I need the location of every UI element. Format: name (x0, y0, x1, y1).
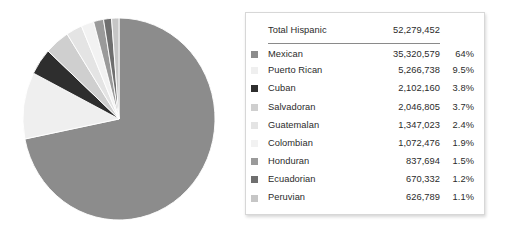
total-percent-cell (440, 24, 474, 44)
table-row: Puerto Rican5,266,7389.5% (251, 62, 474, 80)
legend-swatch-cell (251, 98, 268, 116)
table-row: Peruvian626,7891.1% (251, 189, 474, 207)
legend-swatch-cell (251, 80, 268, 98)
table-row: Honduran837,6941.5% (251, 153, 474, 171)
legend-item-label: Colombian (268, 134, 363, 152)
legend-item-label: Cuban (268, 80, 363, 98)
legend-item-label: Mexican (268, 44, 363, 62)
legend-item-percent: 9.5% (440, 62, 474, 80)
legend-color-swatch-icon (251, 51, 258, 58)
legend-item-percent: 1.9% (440, 134, 474, 152)
legend-item-value: 2,102,160 (363, 80, 440, 98)
pie-chart (22, 16, 218, 222)
legend-item-value: 5,266,738 (363, 62, 440, 80)
legend-item-value: 1,072,476 (363, 134, 440, 152)
legend-item-percent: 3.8% (440, 80, 474, 98)
legend-item-label: Guatemalan (268, 116, 363, 134)
table-row: Cuban2,102,1603.8% (251, 80, 474, 98)
total-value: 52,279,452 (363, 24, 440, 44)
legend-color-swatch-icon (251, 67, 258, 74)
legend-color-swatch-icon (251, 140, 258, 147)
legend-table: Total Hispanic 52,279,452 Mexican35,320,… (251, 24, 474, 207)
table-row: Guatemalan1,347,0232.4% (251, 116, 474, 134)
legend-item-value: 670,332 (363, 171, 440, 189)
legend-swatch-cell (251, 116, 268, 134)
legend-item-label: Honduran (268, 153, 363, 171)
legend-swatch-cell (251, 134, 268, 152)
legend-color-swatch-icon (251, 176, 258, 183)
legend-item-value: 2,046,805 (363, 98, 440, 116)
legend-item-percent: 64% (440, 44, 474, 62)
legend-color-swatch-icon (251, 85, 258, 92)
figure-root: Total Hispanic 52,279,452 Mexican35,320,… (0, 0, 508, 234)
legend-swatch-cell (251, 189, 268, 207)
legend-item-value: 35,320,579 (363, 44, 440, 62)
legend-item-percent: 1.1% (440, 189, 474, 207)
legend-color-swatch-icon (251, 195, 258, 202)
pie-chart-svg (22, 16, 218, 222)
legend-item-percent: 1.2% (440, 171, 474, 189)
legend-swatch-cell (251, 153, 268, 171)
legend-color-swatch-icon (251, 122, 258, 129)
total-swatch-cell (251, 24, 268, 44)
legend-item-percent: 2.4% (440, 116, 474, 134)
table-row: Salvadoran2,046,8053.7% (251, 98, 474, 116)
legend-color-swatch-icon (251, 158, 258, 165)
legend-item-value: 1,347,023 (363, 116, 440, 134)
legend-item-value: 626,789 (363, 189, 440, 207)
legend-swatch-cell (251, 62, 268, 80)
legend-item-label: Ecuadorian (268, 171, 363, 189)
legend-table-body: Total Hispanic 52,279,452 Mexican35,320,… (251, 24, 474, 207)
legend-table-inner: Total Hispanic 52,279,452 Mexican35,320,… (246, 13, 484, 214)
table-row: Colombian1,072,4761.9% (251, 134, 474, 152)
legend-swatch-cell (251, 171, 268, 189)
legend-item-label: Puerto Rican (268, 62, 363, 80)
legend-table-panel: Total Hispanic 52,279,452 Mexican35,320,… (245, 12, 485, 215)
legend-item-percent: 3.7% (440, 98, 474, 116)
legend-item-label: Peruvian (268, 189, 363, 207)
legend-color-swatch-icon (251, 104, 258, 111)
legend-item-percent: 1.5% (440, 153, 474, 171)
table-row: Mexican35,320,57964% (251, 44, 474, 62)
legend-swatch-cell (251, 44, 268, 62)
total-label: Total Hispanic (268, 24, 363, 44)
table-row: Ecuadorian670,3321.2% (251, 171, 474, 189)
pie-slice-group (23, 18, 215, 220)
legend-item-value: 837,694 (363, 153, 440, 171)
legend-item-label: Salvadoran (268, 98, 363, 116)
table-row-total: Total Hispanic 52,279,452 (251, 24, 474, 44)
